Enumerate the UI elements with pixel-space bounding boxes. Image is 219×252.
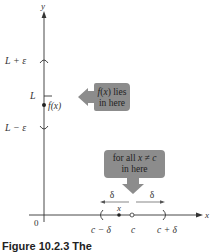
y-axis-label: y (40, 1, 45, 11)
c-label: c (131, 225, 136, 235)
lower-bound-label: L − ε (4, 122, 26, 133)
delta-right-label: δ (150, 190, 155, 200)
x-callout-line2: in here (121, 164, 147, 174)
x-axis-label: x (204, 210, 209, 220)
fx-point (42, 103, 46, 107)
x-point (117, 213, 121, 217)
c-open-point (130, 213, 134, 217)
x-interval: x c − δ c c + δ (91, 203, 177, 235)
x-point-label: x (116, 203, 121, 213)
y-axis-arrow-icon (42, 11, 47, 18)
x-axis-arrow-icon (196, 213, 203, 218)
delta-right-arrow-icon (160, 200, 165, 203)
x-callout: for all x ≠ c in here (104, 150, 165, 194)
y-axis: y (40, 1, 46, 222)
y-interval: L + ε L f(x) L − ε (4, 55, 61, 133)
figure-caption: Figure 10.2.3 The (2, 240, 92, 252)
y-callout-line2: in here (99, 98, 125, 108)
y-callout: f(x) lies in here (78, 83, 130, 111)
delta-left-arrow-icon (100, 200, 105, 203)
c-plus-delta-label: c + δ (157, 225, 177, 235)
fx-label: f(x) (48, 101, 61, 112)
upper-bound-label: L + ε (4, 55, 26, 66)
delta-left-label: δ (110, 190, 115, 200)
c-minus-delta-label: c − δ (91, 225, 111, 235)
limit-label: L (29, 90, 36, 101)
x-callout-line1: for all x ≠ c (113, 153, 158, 163)
origin-label: 0 (34, 218, 39, 228)
y-callout-line1: f(x) lies (98, 87, 127, 98)
